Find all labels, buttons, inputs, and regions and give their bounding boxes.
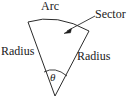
- sector-label: Sector: [95, 8, 126, 20]
- sector-arrowhead-icon: [64, 29, 72, 34]
- radius-left-line: [28, 22, 55, 96]
- angle-theta-label: θ: [50, 72, 55, 83]
- radius-left-label: Radius: [1, 45, 34, 57]
- radius-right-line: [55, 31, 89, 96]
- arc-label: Arc: [41, 0, 59, 12]
- radius-right-label: Radius: [77, 50, 110, 62]
- sector-diagram: Arc Sector Radius Radius θ: [0, 0, 132, 99]
- arc-curve: [28, 19, 89, 31]
